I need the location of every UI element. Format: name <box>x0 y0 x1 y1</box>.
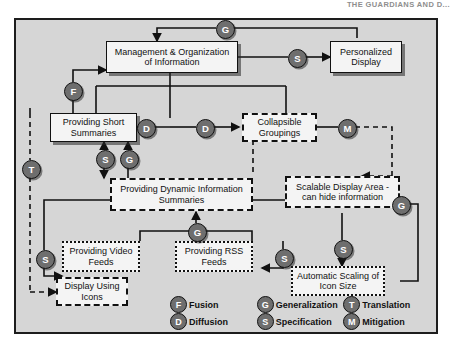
operator-mitigation-right[interactable]: M <box>338 119 357 138</box>
operator-specification-dynamic[interactable]: S <box>96 150 115 169</box>
legend-label-mitigation: Mitigation <box>362 317 405 327</box>
operator-generalization-short-summaries[interactable]: G <box>120 150 139 169</box>
node-scalable-display-area[interactable]: Scalable Display Area - can hide informa… <box>285 176 400 208</box>
operator-specification-personalized[interactable]: S <box>288 49 307 68</box>
node-providing-video-feeds[interactable]: Providing Video Feeds <box>62 241 140 272</box>
operator-specification-video[interactable]: S <box>36 250 55 269</box>
node-automatic-scaling-of-icon-size[interactable]: Automatic Scaling of Icon Size <box>291 266 385 296</box>
legend-item-generalization: G Generalization <box>257 296 344 313</box>
operator-translation-left[interactable]: T <box>22 160 41 179</box>
operator-generalization-top[interactable]: G <box>216 20 235 39</box>
legend: F Fusion G Generalization T Translation … <box>22 296 430 330</box>
node-personalized-display[interactable]: Personalized Display <box>330 41 402 73</box>
legend-item-diffusion: D Diffusion <box>170 313 257 330</box>
translation-icon: T <box>343 296 360 313</box>
operator-fusion-left[interactable]: F <box>64 82 83 101</box>
node-providing-short-summaries[interactable]: Providing Short Summaries <box>50 113 137 142</box>
legend-label-specification: Specification <box>276 317 332 327</box>
operator-diffusion-right[interactable]: D <box>196 119 215 138</box>
generalization-icon: G <box>257 296 274 313</box>
legend-item-translation: T Translation <box>343 296 430 313</box>
node-providing-rss-feeds[interactable]: Providing RSS Feeds <box>175 241 253 272</box>
node-mgmt[interactable]: Management & Organization of Information <box>106 41 238 73</box>
operator-generalization-feeds[interactable]: G <box>188 223 207 242</box>
node-collapsible-groupings[interactable]: Collapsible Groupings <box>242 113 317 142</box>
operator-generalization-scaling-loop[interactable]: G <box>392 196 411 215</box>
legend-label-fusion: Fusion <box>189 300 219 310</box>
diffusion-icon: D <box>170 313 187 330</box>
page-header: THE GUARDIANS AND D... <box>300 0 450 10</box>
mitigation-icon: M <box>343 313 360 330</box>
legend-item-specification: S Specification <box>257 313 344 330</box>
operator-diffusion-left[interactable]: D <box>137 119 156 138</box>
legend-label-generalization: Generalization <box>276 300 338 310</box>
legend-item-fusion: F Fusion <box>170 296 257 313</box>
operator-specification-rss[interactable]: S <box>275 249 294 268</box>
legend-label-translation: Translation <box>362 300 410 310</box>
fusion-icon: F <box>170 296 187 313</box>
diagram-page: THE GUARDIANS AND D... <box>0 0 453 352</box>
specification-icon: S <box>257 313 274 330</box>
operator-specification-automatic-scaling[interactable]: S <box>334 240 353 259</box>
legend-label-diffusion: Diffusion <box>189 317 228 327</box>
legend-item-mitigation: M Mitigation <box>343 313 430 330</box>
node-providing-dynamic-information-summaries[interactable]: Providing Dynamic Information Summaries <box>110 178 253 211</box>
